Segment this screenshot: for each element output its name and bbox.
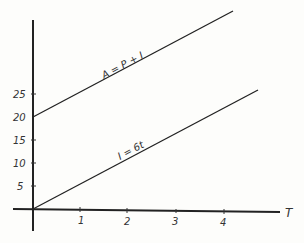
x-axis-label: T xyxy=(285,206,294,220)
y-tick-label: 25 xyxy=(13,89,26,100)
y-tick-label: 5 xyxy=(17,181,23,192)
annotation-a: A = P + I xyxy=(99,50,145,81)
x-axis xyxy=(13,209,280,212)
line-i-equals-6t xyxy=(33,90,258,209)
x-tick-label: 2 xyxy=(124,216,130,227)
x-tick-label: 1 xyxy=(78,215,84,226)
y-tick-label: 20 xyxy=(13,112,26,123)
x-tick-label: 3 xyxy=(172,216,178,227)
annotation-i: I = 6t xyxy=(116,138,147,161)
chart: 1 2 3 4 T 5 10 15 20 25 A = P + I I = 6t xyxy=(0,0,304,243)
x-tick-label: 4 xyxy=(220,217,226,228)
y-tick-label: 10 xyxy=(13,158,26,169)
y-tick-label: 15 xyxy=(13,135,26,146)
